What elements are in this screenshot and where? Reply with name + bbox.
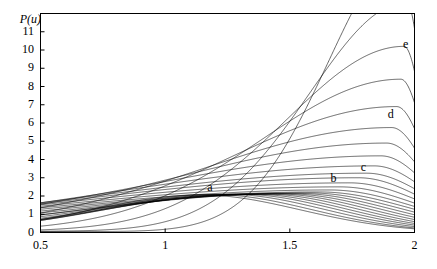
y-tick-label: 2 (28, 188, 34, 203)
x-tick-label: 1.5 (282, 238, 297, 253)
y-tick-label: 11 (22, 24, 34, 39)
y-tick-label: 1 (28, 206, 34, 221)
plot-frame (41, 14, 415, 233)
y-tick-label: 8 (28, 79, 34, 94)
y-tick-label: 3 (28, 170, 34, 185)
plot-area (0, 0, 437, 269)
curve-label-c: c (361, 160, 366, 175)
figure-panel: P(u) 01234567891011 0.511.52 abcde (0, 0, 437, 269)
y-tick-label: 7 (28, 97, 34, 112)
curve-label-d: d (388, 107, 394, 122)
curve-label-a: a (207, 180, 212, 195)
y-tick-label: 4 (28, 152, 34, 167)
curve-label-b: b (330, 171, 336, 186)
y-tick-label: 6 (28, 115, 34, 130)
x-tick-label: 2 (412, 238, 418, 253)
curve-label-e: e (403, 37, 408, 52)
y-tick-label: 10 (22, 42, 34, 57)
y-tick-label: 5 (28, 133, 34, 148)
x-tick-label: 1 (162, 238, 168, 253)
y-tick-label: 9 (28, 60, 34, 75)
curve-family (41, 0, 415, 231)
x-tick-label: 0.5 (33, 238, 48, 253)
